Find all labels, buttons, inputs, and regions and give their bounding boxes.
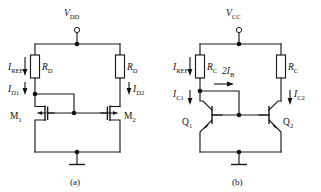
label-ic2: IC2 <box>293 89 305 101</box>
current-arrow-id1 <box>23 82 28 95</box>
q2-emitter-lead <box>269 120 281 152</box>
label-q1: Q1 <box>182 117 192 129</box>
q2-collector-lead <box>269 101 281 110</box>
diode-connect-wire <box>200 91 239 115</box>
panel-b: VCC IREF RC 2IB RC IC1 IC2 Q1 Q2 (b) <box>172 8 305 187</box>
label-rc-right: RC <box>287 62 299 74</box>
current-arrow-ic1 <box>188 90 193 105</box>
supply-terminal-circle <box>74 27 79 32</box>
supply-terminal-circle <box>236 27 241 32</box>
q1-collector-lead <box>200 91 212 110</box>
diode-connect-wire <box>35 94 74 113</box>
current-arrow-iref-b <box>188 57 193 76</box>
iref-arrow-head <box>23 69 28 76</box>
m1-drain-lead <box>35 94 45 107</box>
figure-container: VDD IREF RD RD ID1 ID2 M1 M2 (a) <box>0 0 321 192</box>
q1-emitter-lead <box>200 120 212 152</box>
supply-node-vcc <box>236 27 241 44</box>
label-m2: M2 <box>124 111 136 123</box>
id2-arrow-head <box>127 88 132 95</box>
mosfet-m2 <box>101 106 120 153</box>
mosfet-m1 <box>35 94 54 152</box>
rail-junction-dot <box>237 42 242 47</box>
label-m1: M1 <box>10 111 22 123</box>
ic1-arrow-head <box>188 98 193 105</box>
label-vcc: VCC <box>226 8 241 20</box>
supply-node-vdd <box>74 27 79 44</box>
current-arrow-ic2 <box>288 90 293 105</box>
current-arrow-iref-a <box>23 57 28 76</box>
ground-symbol-b <box>231 152 247 165</box>
schematic-canvas: VDD IREF RD RD ID1 ID2 M1 M2 (a) <box>0 0 321 192</box>
rail-junction-dot <box>75 42 80 47</box>
panel-a: VDD IREF RD RD ID1 ID2 M1 M2 (a) <box>7 8 144 187</box>
m1-source-lead <box>35 120 45 152</box>
gate-node-dot <box>72 111 77 116</box>
label-vdd: VDD <box>64 8 80 20</box>
id1-arrow-head <box>23 88 28 95</box>
label-id2: ID2 <box>132 84 144 96</box>
label-ic1: IC1 <box>172 89 184 101</box>
resistor-rd-left <box>31 55 40 78</box>
label-2ib: 2IB <box>222 66 235 78</box>
resistor-rc-left <box>196 55 205 78</box>
caption-b: (b) <box>232 177 243 187</box>
m1-channel-arrow <box>38 111 42 115</box>
label-iref-b: IREF <box>172 62 189 74</box>
label-q2: Q2 <box>283 117 293 129</box>
label-iref-a: IREF <box>7 62 24 74</box>
current-arrow-id2 <box>127 82 132 95</box>
resistor-rd-right <box>116 55 125 78</box>
iref-arrow-head <box>188 69 193 76</box>
base-node-dot <box>237 113 242 118</box>
caption-a: (a) <box>70 177 80 187</box>
bjt-q1 <box>200 91 222 152</box>
resistor-rc-right <box>277 55 286 78</box>
label-id1: ID1 <box>7 84 19 96</box>
bjt-q2 <box>259 101 281 152</box>
m2-channel-arrow <box>113 111 117 115</box>
ground-symbol-a <box>69 152 85 165</box>
current-arrow-2ib <box>214 82 234 87</box>
ic2-arrow-head <box>288 98 293 105</box>
label-rc-left: RC <box>206 62 218 74</box>
m2-source-lead <box>110 120 120 152</box>
label-rd-right: RD <box>126 62 138 74</box>
label-rd-left: RD <box>41 62 53 74</box>
2ib-arrow-head <box>227 82 234 87</box>
